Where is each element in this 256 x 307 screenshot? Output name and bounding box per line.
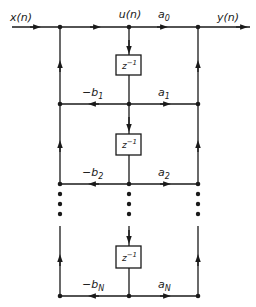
feedback-coef-n: −bN [82,278,104,293]
feedforward-coef-1: a1 [158,86,170,101]
delay-label: z−1 [121,251,137,263]
state-label: u(n) [119,8,142,21]
feedforward-coef-2: a2 [158,166,170,181]
gain-a0: a0 [158,8,170,23]
delay-label: z−1 [121,138,137,150]
feedback-coef-1: −b1 [82,86,103,101]
feedback-coef-2: −b2 [82,166,103,181]
iir-direct-form-ii-diagram: x(n) y(n) u(n) a0 z−1 z−1 z−1 −b1 a1 −b2… [0,0,256,307]
output-label: y(n) [216,11,239,24]
feedforward-coef-n: aN [158,278,171,293]
delay-label: z−1 [121,59,137,71]
input-label: x(n) [9,11,32,24]
